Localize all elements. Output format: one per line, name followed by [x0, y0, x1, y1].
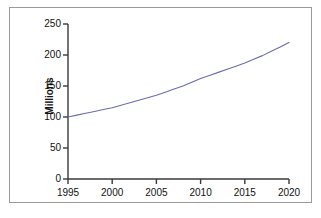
chart-figure: Millions 050100150200250 199520002005201… — [0, 0, 321, 218]
x-tick-label: 2020 — [269, 187, 309, 198]
x-tick-label: 2005 — [136, 187, 176, 198]
x-tick-label: 1995 — [48, 187, 88, 198]
y-tick-label: 150 — [27, 80, 61, 91]
x-tick-label: 2010 — [181, 187, 221, 198]
y-tick-label: 100 — [27, 111, 61, 122]
y-tick-label: 200 — [27, 49, 61, 60]
x-tick-label: 2000 — [92, 187, 132, 198]
y-tick-label: 250 — [27, 18, 61, 29]
y-axis-ticks — [63, 24, 68, 179]
y-tick-label: 0 — [27, 173, 61, 184]
chart-frame: Millions 050100150200250 199520002005201… — [9, 7, 312, 203]
x-axis-ticks — [68, 179, 289, 184]
y-tick-label: 50 — [27, 142, 61, 153]
data-series-line — [68, 43, 289, 117]
x-tick-label: 2015 — [225, 187, 265, 198]
